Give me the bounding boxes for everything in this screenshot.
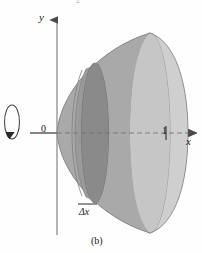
origin-label: 0 [41,124,46,134]
top-cut-label: 2 [76,0,80,5]
rotation-arrow-icon [5,105,20,139]
figure-canvas [0,0,202,253]
y-axis-label: y [39,12,44,23]
x-tick-label-1: 1 [162,126,167,136]
figure-caption: (b) [91,236,103,246]
delta-x-label: Δx [79,207,89,217]
x-axis-label: x [186,136,191,147]
solid-of-revolution-figure: 2 y x 0 1 Δx (b) [0,0,202,253]
